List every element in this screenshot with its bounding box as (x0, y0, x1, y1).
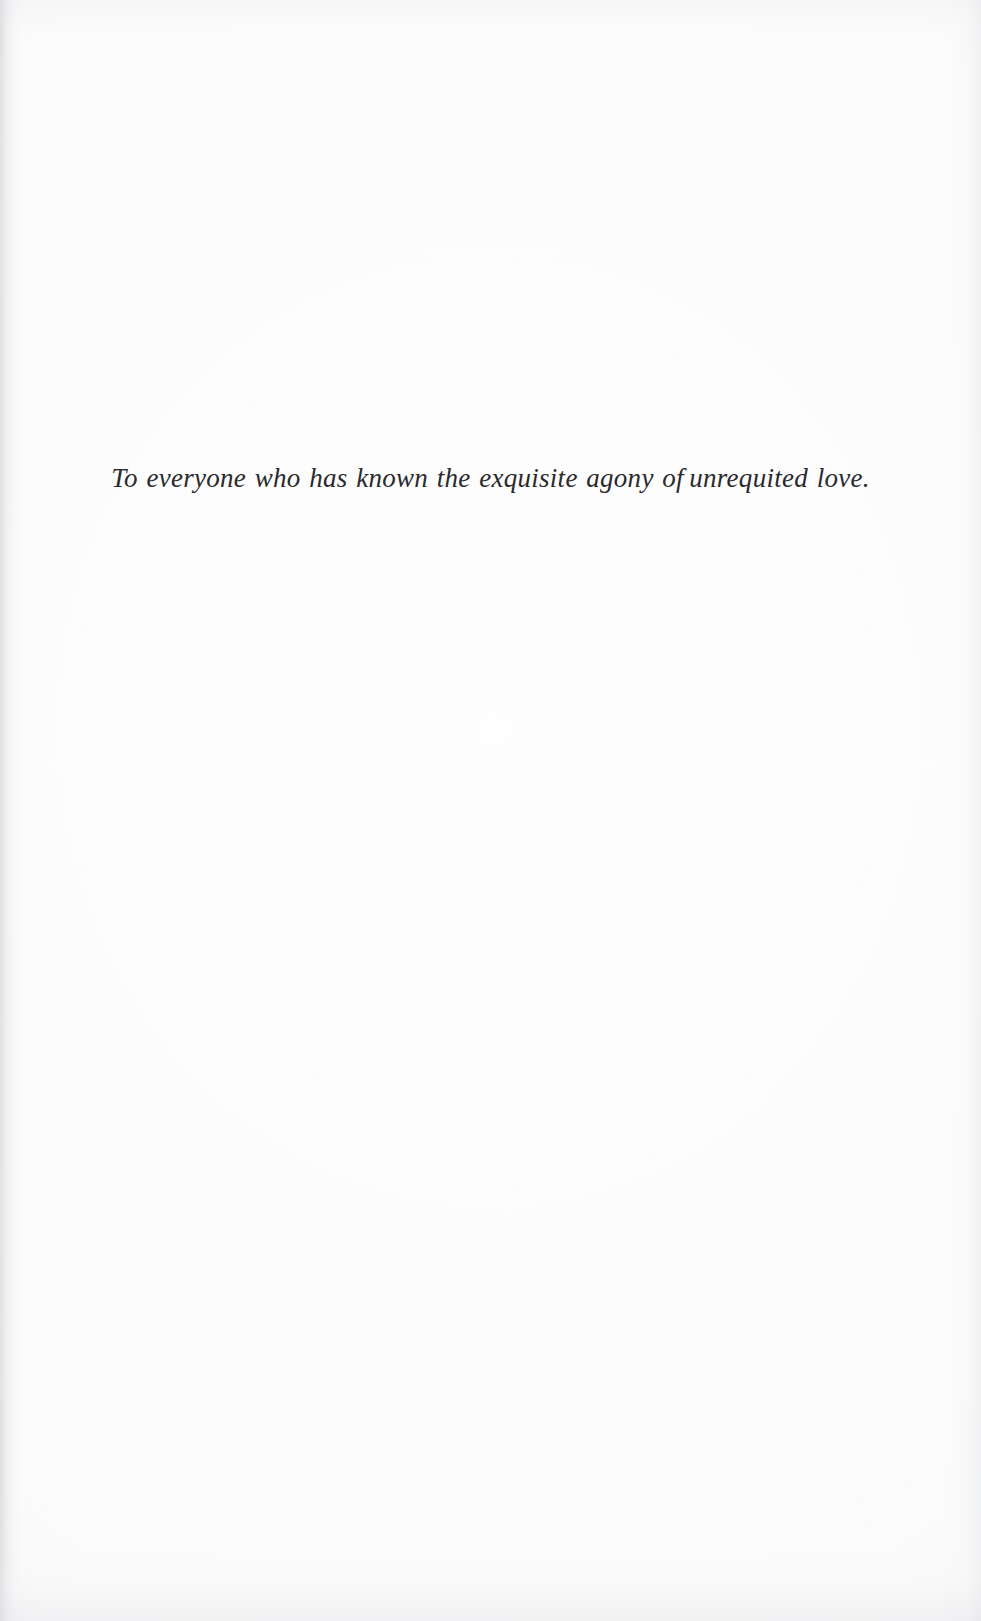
dedication-line: To everyone who has known the exquisite … (111, 458, 870, 498)
dedication-text-trailing: unrequited love. (689, 463, 870, 493)
paper-tone-overlay (0, 0, 981, 1621)
right-edge-shadow (947, 0, 981, 1621)
scan-grain-overlay (0, 0, 981, 1621)
bottom-edge-shadow (0, 1551, 981, 1621)
dedication-block: To everyone who has known the exquisite … (0, 458, 981, 498)
top-edge-shadow (0, 0, 981, 48)
dedication-text-leading: To everyone who has known the exquisite … (111, 463, 684, 493)
left-gutter-shadow (0, 0, 26, 1621)
dedication-page: To everyone who has known the exquisite … (0, 0, 981, 1621)
